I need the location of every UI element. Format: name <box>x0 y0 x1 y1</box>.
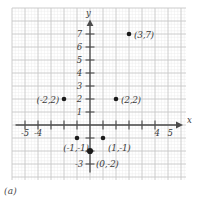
data-point <box>127 32 132 37</box>
x-tick-label-neg5: -5 <box>21 128 29 138</box>
y-tick-label-1: 1 <box>77 107 82 117</box>
point-label-0-neg2: (0,-2) <box>96 159 119 169</box>
y-tick-label-2: 2 <box>76 94 82 104</box>
point-label-3-7: (3,7) <box>134 30 155 40</box>
data-point <box>114 97 119 102</box>
x-tick-label-4: 4 <box>153 128 159 138</box>
point-label-2-2: (2,2) <box>121 95 142 105</box>
point-label-neg2-2: (-2,2) <box>36 95 59 105</box>
point-label-neg1-neg1: (-1,-1) <box>63 143 89 153</box>
data-point <box>62 97 67 102</box>
scatter-plot: y x 7 6 5 4 3 2 1 -3 -5 -4 4 5 (3,7) (-2… <box>0 0 200 204</box>
x-axis-label: x <box>187 115 192 125</box>
x-tick-label-neg4: -4 <box>34 128 42 138</box>
y-tick-label-neg3: -3 <box>75 159 83 169</box>
y-tick-label-3: 3 <box>77 81 82 91</box>
point-label-1-neg1: (1,-1) <box>108 143 131 153</box>
y-tick-label-4: 4 <box>76 68 82 78</box>
y-tick-label-7: 7 <box>77 29 83 39</box>
data-point <box>101 136 106 141</box>
figure-caption: (a) <box>4 186 17 196</box>
x-tick-label-5: 5 <box>167 128 172 138</box>
data-point <box>75 136 80 141</box>
coordinate-plane-figure: y x 7 6 5 4 3 2 1 -3 -5 -4 4 5 (3,7) (-2… <box>0 0 200 204</box>
y-axis-label: y <box>85 8 91 18</box>
y-tick-label-5: 5 <box>77 55 82 65</box>
y-axis-arrow <box>87 20 94 27</box>
y-tick-label-6: 6 <box>77 42 83 52</box>
x-axis-arrow <box>176 122 183 129</box>
